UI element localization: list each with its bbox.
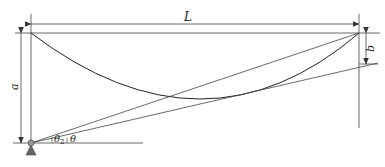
- offset-label: b: [364, 45, 377, 52]
- pivot-circle: [28, 140, 34, 146]
- angle-chord-label: θ2: [54, 133, 65, 146]
- tangent-line: [31, 63, 378, 143]
- height-label: a: [8, 83, 21, 90]
- angle-tangent-label: θ: [70, 133, 76, 144]
- cable-curve: [31, 33, 359, 99]
- support-triangle: [26, 145, 36, 155]
- chord-line: [31, 33, 359, 143]
- cable-diagram: L a b θ2 θ: [0, 0, 385, 167]
- span-label: L: [183, 10, 192, 24]
